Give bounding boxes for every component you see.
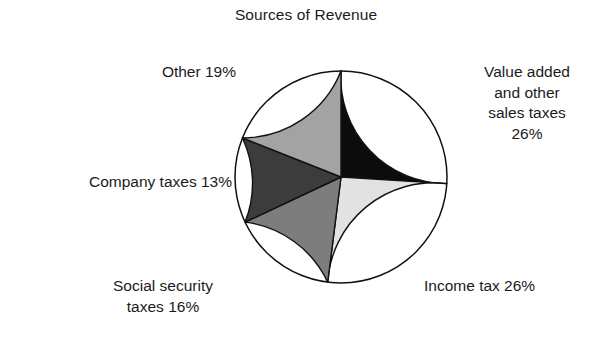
slice-label-income-tax: Income tax 26% <box>424 276 608 297</box>
slice-label-company-taxes: Company taxes 13% <box>10 172 232 193</box>
slice-label-social-security-taxes: Social security taxes 16% <box>74 276 252 317</box>
pie-chart <box>234 70 448 284</box>
slice-label-other: Other 19% <box>104 62 236 83</box>
page-title: Sources of Revenue <box>0 6 612 24</box>
pie-chart-figure: Sources of Revenue Value added and other… <box>0 0 612 339</box>
slice-label-value-added-and-other-sales-taxes: Value added and other sales taxes 26% <box>452 62 602 144</box>
pie-slice-income-tax[interactable] <box>328 177 447 282</box>
pie-slice-value-added-and-other-sales-taxes[interactable] <box>341 71 447 184</box>
pie-svg <box>234 70 448 284</box>
